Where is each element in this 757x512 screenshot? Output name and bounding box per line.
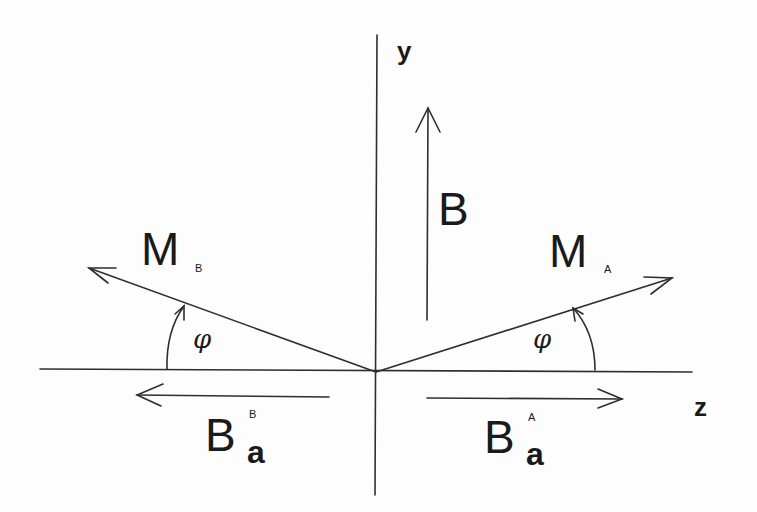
magnetization-a-subscript: A bbox=[604, 264, 611, 275]
magnetization-diagram: y z B M A M B φ φ B A a B B a bbox=[0, 0, 757, 512]
applied-field-a-label: B bbox=[484, 414, 515, 460]
applied-field-a-subscript: a bbox=[526, 438, 544, 470]
magnetization-b-arrow bbox=[89, 268, 376, 372]
b-field-arrow bbox=[416, 108, 440, 320]
angle-phi-left: φ bbox=[193, 326, 211, 352]
applied-field-a-arrow bbox=[427, 389, 622, 408]
b-field-label: B bbox=[438, 186, 469, 232]
z-axis-label: z bbox=[694, 394, 707, 420]
applied-field-a-superscript: A bbox=[528, 412, 535, 423]
diagram-lines bbox=[0, 0, 757, 512]
y-axis-line bbox=[375, 35, 377, 495]
magnetization-b-label: M bbox=[141, 226, 179, 272]
applied-field-b-arrow bbox=[137, 384, 329, 406]
applied-field-b-superscript: B bbox=[249, 409, 256, 420]
magnetization-a-label: M bbox=[549, 228, 587, 274]
magnetization-b-subscript: B bbox=[195, 263, 202, 274]
applied-field-b-label: B bbox=[205, 412, 236, 458]
angle-phi-right: φ bbox=[533, 326, 551, 352]
angle-arc-left bbox=[167, 306, 184, 369]
magnetization-a-arrow bbox=[376, 277, 672, 372]
y-axis-label: y bbox=[397, 38, 411, 64]
applied-field-b-subscript: a bbox=[247, 436, 265, 468]
angle-arc-right bbox=[573, 308, 595, 370]
